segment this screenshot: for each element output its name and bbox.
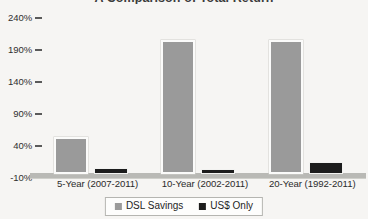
y-axis-tick-label: 190% bbox=[8, 44, 32, 56]
y-axis-tick-mark bbox=[35, 81, 42, 83]
y-axis-tick: 190% bbox=[8, 40, 44, 52]
y-axis-tick-mark bbox=[35, 49, 42, 51]
bar-usd-only[interactable] bbox=[309, 162, 343, 174]
legend-swatch-icon bbox=[199, 203, 206, 210]
plot-area: 240%190%140%90%40%-10% bbox=[44, 14, 366, 174]
bar-group bbox=[259, 14, 366, 174]
chart-container: A Comparison of Total Return 240%190%140… bbox=[0, 0, 368, 219]
y-axis-tick-mark bbox=[35, 113, 42, 115]
x-axis-label: 10-Year (2002-2011) bbox=[151, 178, 258, 189]
y-axis-tick-label: 40% bbox=[13, 140, 32, 152]
chart-title: A Comparison of Total Return bbox=[0, 0, 368, 4]
y-axis-tick: 40% bbox=[13, 136, 44, 148]
legend-label: US$ Only bbox=[210, 200, 253, 212]
bar-dsl-savings[interactable] bbox=[269, 40, 303, 174]
x-axis-label: 5-Year (2007-2011) bbox=[44, 178, 151, 189]
bar-dsl-savings[interactable] bbox=[54, 137, 88, 174]
legend-item[interactable]: DSL Savings bbox=[115, 200, 183, 212]
legend-label: DSL Savings bbox=[126, 200, 183, 212]
y-axis-tick: 90% bbox=[13, 104, 44, 116]
y-axis-tick-mark bbox=[35, 17, 42, 19]
x-axis-labels: 5-Year (2007-2011)10-Year (2002-2011)20-… bbox=[44, 178, 366, 192]
y-axis-tick-label: 140% bbox=[8, 76, 32, 88]
y-axis-tick-mark bbox=[35, 145, 42, 147]
y-axis-tick-label: 90% bbox=[13, 108, 32, 120]
bar-usd-only[interactable] bbox=[94, 168, 128, 174]
y-axis-tick: 240% bbox=[8, 8, 44, 20]
y-axis-tick: 140% bbox=[8, 72, 44, 84]
legend-item[interactable]: US$ Only bbox=[199, 200, 253, 212]
chart-legend: DSL SavingsUS$ Only bbox=[105, 197, 263, 216]
bar-usd-only[interactable] bbox=[201, 169, 235, 174]
legend-swatch-icon bbox=[115, 203, 122, 210]
bar-group bbox=[44, 14, 151, 174]
y-axis-tick-label: -10% bbox=[10, 172, 32, 184]
bar-group bbox=[151, 14, 258, 174]
bar-dsl-savings[interactable] bbox=[161, 40, 195, 174]
x-axis-label: 20-Year (1992-2011) bbox=[259, 178, 366, 189]
y-axis-tick-label: 240% bbox=[8, 12, 32, 24]
